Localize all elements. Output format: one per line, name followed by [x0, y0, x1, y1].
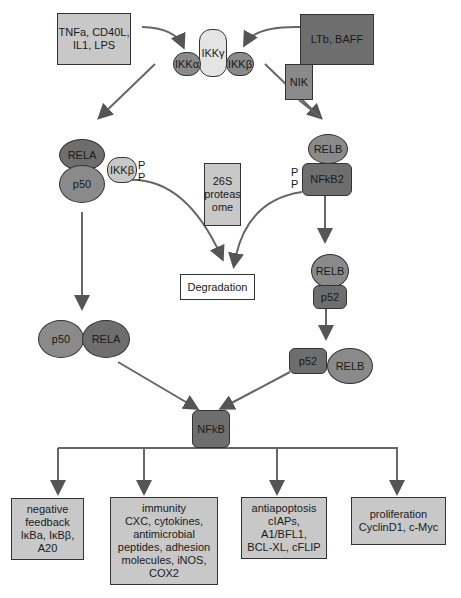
- output-proliferation: proliferation CyclinD1, c-Myc: [351, 497, 446, 545]
- output-line: antimicrobial: [133, 528, 195, 541]
- p50-label: p50: [73, 178, 91, 191]
- phospho-label: P: [291, 167, 298, 178]
- proteasome-label: 26S proteas ome: [204, 175, 241, 214]
- relb-processed-label: RELB: [316, 265, 345, 278]
- degradation-box: Degradation: [180, 274, 255, 300]
- relb-dimer-label: RELB: [336, 360, 365, 373]
- ikk-beta-label: IKKβ: [228, 58, 252, 71]
- ikkb-bound-label: IKKβ: [110, 164, 134, 177]
- output-line: CXC, cytokines,: [125, 515, 203, 528]
- output-line: immunity: [142, 502, 186, 515]
- relb-dimer: RELB: [327, 348, 373, 384]
- output-immunity: immunity CXC, cytokines, antimicrobial p…: [110, 497, 218, 585]
- output-line: peptides, adhesion: [118, 541, 210, 554]
- output-negative-feedback: negative feedback IκBa, IκBβ, A20: [11, 498, 84, 560]
- rela-dimer: RELA: [82, 320, 130, 358]
- ikk-gamma: IKKγ: [199, 29, 227, 77]
- nfkb2-label: NFkB2: [310, 173, 344, 186]
- rela-dimer-label: RELA: [92, 333, 121, 346]
- p52-dimer: p52: [289, 348, 327, 374]
- ikk-beta: IKKβ: [226, 52, 254, 76]
- output-line: CyclinD1, c-Myc: [359, 521, 438, 534]
- relb-label: RELB: [314, 143, 343, 156]
- output-line: BCL-XL, cFLIP: [247, 541, 320, 554]
- output-line: cIAPs, A1/BFL1,: [246, 515, 322, 541]
- p50-dimer-label: p50: [52, 333, 70, 346]
- nik-label: NIK: [290, 76, 308, 89]
- p52-processed: p52: [313, 285, 347, 309]
- ikk-alpha: IKKα: [173, 52, 201, 76]
- output-antiapoptosis: antiapoptosis cIAPs, A1/BFL1, BCL-XL, cF…: [241, 497, 327, 559]
- phospho-label: P: [138, 172, 145, 183]
- nfkb-box: NFkB: [192, 410, 230, 448]
- p50-canonical: p50: [59, 165, 105, 203]
- output-line: antiapoptosis: [252, 502, 317, 515]
- phospho-label: P: [291, 179, 298, 190]
- p52-dimer-label: p52: [299, 355, 317, 368]
- output-line: molecules, iNOS,: [122, 554, 207, 567]
- rela-label: RELA: [68, 149, 97, 162]
- output-line: COX2: [149, 567, 179, 580]
- canonical-stimuli-box: TNFa, CD40L, IL1, LPS: [57, 13, 131, 65]
- degradation-label: Degradation: [188, 281, 248, 294]
- proteasome-box: 26S proteas ome: [204, 163, 241, 226]
- ikk-alpha-label: IKKα: [175, 58, 199, 71]
- ikk-beta-bound: IKKβ: [107, 157, 137, 183]
- p50-dimer: p50: [38, 320, 84, 358]
- output-line: proliferation: [370, 508, 427, 521]
- canonical-stimuli-label: TNFa, CD40L, IL1, LPS: [58, 26, 130, 52]
- nik-box: NIK: [285, 64, 313, 100]
- nfkb-label: NFkB: [197, 423, 225, 436]
- output-line: negative: [27, 503, 69, 516]
- ikk-gamma-label: IKKγ: [201, 47, 224, 60]
- noncanonical-stimuli-box: LTb, BAFF: [300, 14, 374, 65]
- phospho-label: P: [138, 160, 145, 171]
- relb-noncanonical: RELB: [308, 134, 348, 164]
- output-line: IκBa, IκBβ,: [21, 529, 74, 542]
- nfkb2-box: NFkB2: [302, 163, 352, 196]
- relb-processed: RELB: [311, 254, 349, 288]
- output-line: feedback: [25, 516, 70, 529]
- output-line: A20: [38, 542, 58, 555]
- noncanonical-stimuli-label: LTb, BAFF: [311, 33, 363, 46]
- p52-processed-label: p52: [321, 291, 339, 304]
